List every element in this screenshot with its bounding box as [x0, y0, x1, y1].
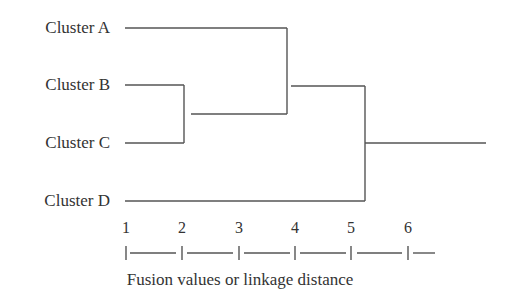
axis-tick-label-6: 6	[404, 219, 412, 237]
dendrogram: Cluster A Cluster B Cluster C Cluster D	[0, 0, 512, 308]
axis-tick-label-5: 5	[347, 219, 355, 237]
axis-tick-label-1: 1	[122, 219, 130, 237]
dendrogram-branches	[0, 0, 512, 308]
axis-tick-label-4: 4	[291, 219, 299, 237]
axis-scale	[126, 246, 435, 260]
axis-title: Fusion values or linkage distance	[0, 271, 480, 289]
axis-tick-label-2: 2	[178, 219, 186, 237]
axis-tick-label-3: 3	[235, 219, 243, 237]
